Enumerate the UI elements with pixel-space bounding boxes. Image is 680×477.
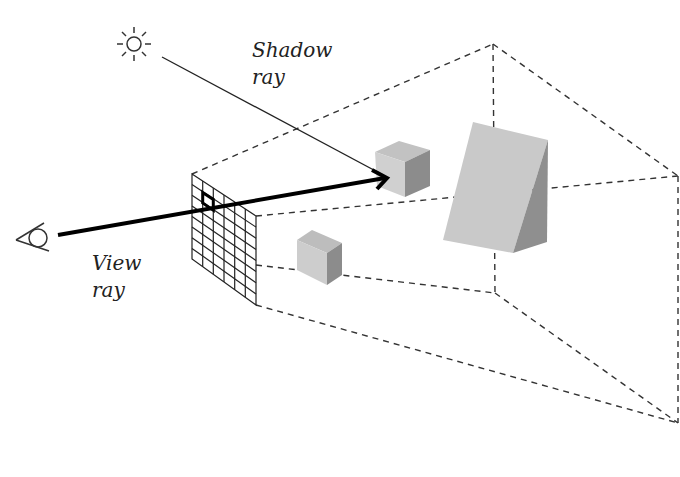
- cube-far: [375, 141, 430, 197]
- view-ray-label-line2: ray: [92, 278, 125, 302]
- ray-tracing-diagram: Shadow ray View ray: [0, 0, 680, 477]
- sun-icon: [117, 27, 151, 61]
- view-ray-label-line1: View: [92, 251, 141, 275]
- cube-near: [297, 230, 342, 285]
- view-frustum: [192, 44, 678, 423]
- shadow-ray-label-line1: Shadow: [252, 38, 332, 62]
- shadow-ray-label-line2: ray: [252, 65, 285, 89]
- eye-icon: [16, 223, 49, 251]
- wedge: [443, 122, 548, 253]
